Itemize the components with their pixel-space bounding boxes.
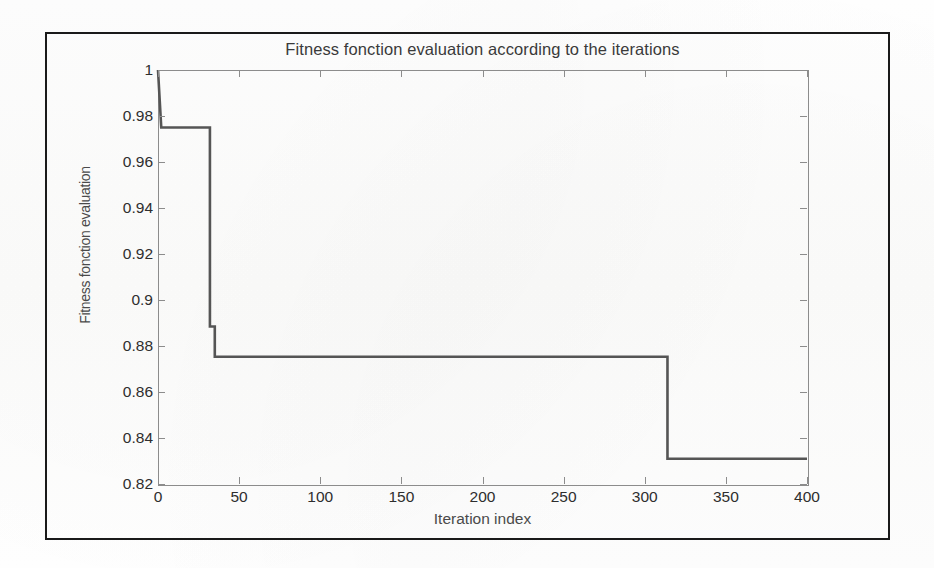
y-tick-mark-right: [800, 438, 807, 439]
y-tick-label: 0.98: [93, 107, 153, 125]
y-tick-mark-right: [800, 300, 807, 301]
x-tick-mark-top: [564, 70, 565, 77]
y-tick-mark-right: [800, 116, 807, 117]
y-tick-mark-right: [800, 208, 807, 209]
y-tick-mark: [158, 484, 165, 485]
y-tick-label: 0.92: [93, 245, 153, 263]
x-tick-mark-top: [483, 70, 484, 77]
x-tick-mark: [401, 477, 402, 484]
y-tick-label: 0.84: [93, 429, 153, 447]
fitness-step-line: [158, 70, 807, 459]
x-tick-mark: [726, 477, 727, 484]
x-tick-label: 400: [777, 488, 837, 506]
x-tick-mark: [158, 477, 159, 484]
y-tick-mark: [158, 254, 165, 255]
y-tick-mark: [158, 70, 165, 71]
figure-page: Fitness fonction evaluation according to…: [0, 0, 934, 568]
y-tick-mark: [158, 300, 165, 301]
y-tick-mark: [158, 438, 165, 439]
y-tick-label: 0.94: [93, 199, 153, 217]
x-tick-mark-top: [239, 70, 240, 77]
x-tick-label: 250: [534, 488, 594, 506]
x-tick-label: 150: [371, 488, 431, 506]
x-tick-mark-top: [726, 70, 727, 77]
x-tick-mark-top: [158, 70, 159, 77]
x-axis-label: Iteration index: [158, 510, 807, 528]
x-tick-label: 0: [128, 488, 188, 506]
y-tick-mark-right: [800, 70, 807, 71]
chart-title: Fitness fonction evaluation according to…: [158, 40, 807, 59]
y-tick-mark: [158, 208, 165, 209]
y-tick-mark: [158, 162, 165, 163]
y-tick-label: 0.88: [93, 337, 153, 355]
y-tick-label: 0.96: [93, 153, 153, 171]
x-tick-label: 100: [290, 488, 350, 506]
x-tick-mark-top: [320, 70, 321, 77]
y-tick-mark-right: [800, 162, 807, 163]
x-tick-label: 50: [209, 488, 269, 506]
series-layer: [158, 70, 807, 484]
x-tick-mark-top: [401, 70, 402, 77]
y-tick-label: 0.9: [93, 291, 153, 309]
x-tick-mark-top: [807, 70, 808, 77]
x-tick-mark: [483, 477, 484, 484]
x-tick-mark: [239, 477, 240, 484]
chart-figure: Fitness fonction evaluation according to…: [45, 32, 890, 540]
x-tick-mark: [807, 477, 808, 484]
y-tick-mark: [158, 116, 165, 117]
y-tick-mark-right: [800, 392, 807, 393]
x-tick-mark-top: [645, 70, 646, 77]
x-tick-label: 300: [615, 488, 675, 506]
x-tick-mark: [320, 477, 321, 484]
y-tick-label: 1: [93, 61, 153, 79]
y-tick-mark-right: [800, 346, 807, 347]
y-tick-mark: [158, 346, 165, 347]
x-tick-label: 350: [696, 488, 756, 506]
x-tick-label: 200: [453, 488, 513, 506]
y-tick-mark-right: [800, 254, 807, 255]
y-axis-label: Fitness fonction evaluation: [77, 125, 93, 365]
y-tick-mark-right: [800, 484, 807, 485]
y-tick-mark: [158, 392, 165, 393]
x-tick-mark: [564, 477, 565, 484]
x-tick-mark: [645, 477, 646, 484]
y-tick-label: 0.86: [93, 383, 153, 401]
